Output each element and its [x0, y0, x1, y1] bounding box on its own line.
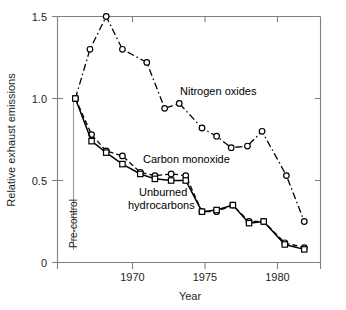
x-axis-title: Year — [179, 290, 202, 302]
series-label-unburned-line2: hydrocarbons — [128, 199, 195, 211]
data-point-circle — [284, 173, 290, 179]
y-tick-label-0-5: 0.5 — [32, 175, 47, 187]
data-point-circle — [214, 133, 220, 139]
data-point-square — [199, 209, 204, 214]
data-point-square — [104, 150, 109, 155]
data-point-circle — [301, 219, 307, 225]
series-carbon-monoxide — [73, 96, 308, 251]
chart-figure: 1.5 1.0 0.5 0 1970 1975 1980 Year Relati… — [0, 0, 346, 310]
data-point-square — [89, 138, 94, 143]
x-tick-label-1975: 1975 — [193, 271, 217, 283]
series-label-carbon-monoxide: Carbon monoxide — [143, 153, 230, 165]
data-point-circle — [168, 171, 174, 177]
data-point-square — [73, 96, 78, 101]
data-point-circle — [245, 143, 251, 149]
x-tick-label-1980: 1980 — [265, 271, 289, 283]
y-tick-label-0: 0 — [41, 257, 47, 269]
data-point-circle — [259, 129, 265, 135]
y-axis-title: Relative exhaust emissions — [5, 73, 17, 207]
precontrol-annotation: Pre-control — [68, 99, 79, 251]
data-point-circle — [87, 47, 93, 53]
data-point-circle — [162, 106, 168, 112]
data-point-square — [138, 171, 143, 176]
data-point-square — [214, 207, 219, 212]
series-label-unburned-line1: Unburned — [139, 186, 187, 198]
data-point-circle — [144, 60, 150, 66]
data-point-square — [183, 178, 188, 183]
series-line — [75, 99, 304, 248]
data-point-square — [120, 161, 125, 166]
chart-series-layer — [73, 14, 308, 252]
data-point-square — [261, 219, 266, 224]
data-point-circle — [199, 125, 205, 131]
series-unburned-hydrocarbons — [73, 96, 307, 252]
y-tick-label-1-5: 1.5 — [32, 11, 47, 23]
series-nitrogen-oxides — [73, 14, 308, 225]
data-point-square — [282, 242, 287, 247]
data-point-square — [246, 220, 251, 225]
precontrol-label: Pre-control — [68, 199, 79, 248]
data-point-circle — [120, 153, 126, 159]
data-point-square — [152, 176, 157, 181]
emissions-line-chart: 1.5 1.0 0.5 0 1970 1975 1980 Year Relati… — [0, 0, 346, 310]
data-point-circle — [103, 14, 109, 20]
data-point-square — [302, 247, 307, 252]
y-tick-label-1-0: 1.0 — [32, 93, 47, 105]
data-point-circle — [228, 145, 234, 151]
chart-axes — [58, 17, 321, 263]
series-line — [75, 17, 304, 222]
data-point-circle — [176, 101, 182, 107]
x-tick-marks — [58, 17, 321, 270]
x-tick-label-1970: 1970 — [120, 271, 144, 283]
series-label-nitrogen-oxides: Nitrogen oxides — [180, 85, 257, 97]
data-point-square — [230, 202, 235, 207]
series-line — [75, 99, 304, 250]
data-point-square — [168, 178, 173, 183]
data-point-circle — [120, 47, 126, 53]
